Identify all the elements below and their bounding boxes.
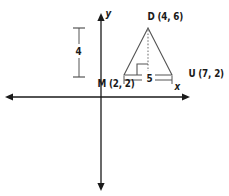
- y-axis-up-arrow: [97, 13, 104, 21]
- point-label-m: M (2, 2): [98, 79, 135, 89]
- x-axis-label: x: [174, 82, 180, 92]
- height-measure-label: 4: [75, 47, 81, 57]
- x-axis: [5, 93, 190, 100]
- geometry-diagram: D (4, 6) U (7, 2) M (2, 2) 5 4 x y: [0, 0, 229, 196]
- diagram-canvas: [0, 0, 229, 196]
- point-label-u: U (7, 2): [188, 69, 224, 79]
- base-measure-label: 5: [146, 74, 152, 84]
- y-axis-label: y: [105, 9, 111, 19]
- y-axis-down-arrow: [97, 183, 104, 191]
- x-axis-right-arrow: [182, 93, 190, 100]
- y-axis: [97, 13, 104, 191]
- x-axis-left-arrow: [5, 93, 13, 100]
- point-label-d: D (4, 6): [147, 12, 183, 22]
